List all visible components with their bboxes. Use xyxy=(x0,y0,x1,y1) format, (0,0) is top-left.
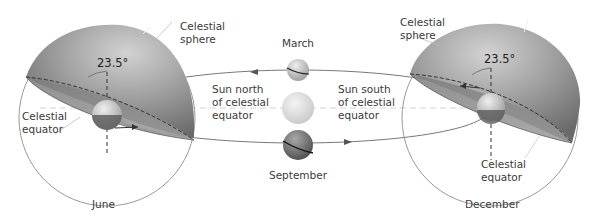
seasons-diagram xyxy=(0,0,596,218)
september-label: September xyxy=(265,169,331,182)
march-label: March xyxy=(272,37,324,50)
sun-south-label: Sun south of celestial equator xyxy=(338,83,395,122)
orbit-arrow-icon xyxy=(344,139,352,145)
left-equator-label: Celestial equator xyxy=(22,110,67,136)
right-month-label: December xyxy=(465,198,519,211)
sun-icon xyxy=(282,92,314,124)
right-tilt-label: 23.5° xyxy=(484,53,515,66)
right-equator-label: Celestial equator xyxy=(481,158,526,184)
sun-north-label: Sun north of celestial equator xyxy=(212,83,269,122)
september-globe xyxy=(283,130,313,160)
left-tilt-label: 23.5° xyxy=(97,57,128,70)
center-sun-positions xyxy=(282,59,314,160)
right-sphere-label: Celestial sphere xyxy=(400,16,445,42)
left-sphere-label: Celestial sphere xyxy=(180,20,225,46)
orbit-arrow-icon xyxy=(250,69,258,75)
march-globe xyxy=(287,59,309,81)
left-month-label: June xyxy=(92,198,115,211)
